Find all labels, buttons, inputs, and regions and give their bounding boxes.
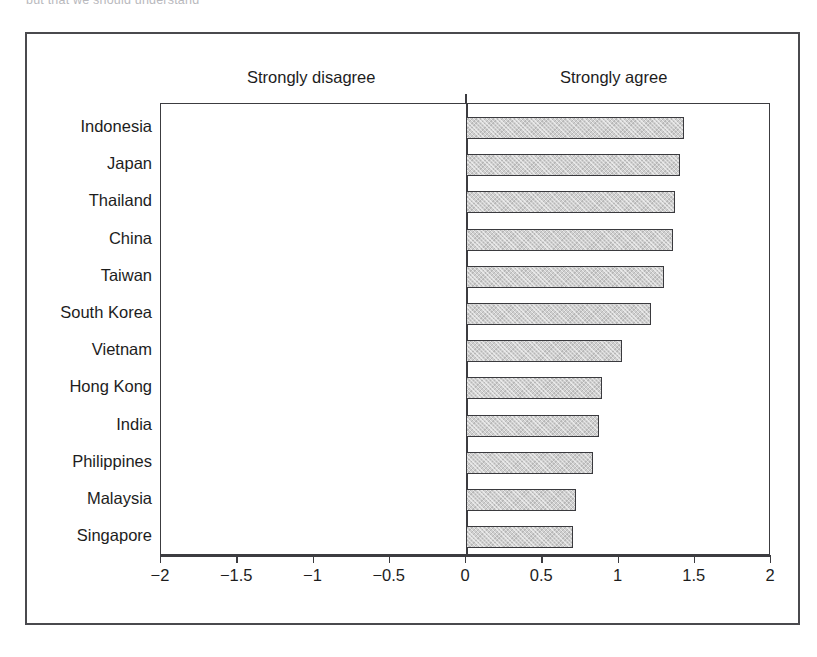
category-label-taiwan: Taiwan bbox=[2, 266, 152, 285]
bar-row bbox=[161, 445, 769, 482]
bar-row bbox=[161, 408, 769, 445]
category-label-south-korea: South Korea bbox=[2, 303, 152, 322]
category-axis-labels: IndonesiaJapanThailandChinaTaiwanSouth K… bbox=[0, 103, 152, 555]
x-tick bbox=[236, 555, 237, 563]
x-tick bbox=[770, 555, 771, 563]
x-tick bbox=[389, 555, 390, 563]
bar-row bbox=[161, 333, 769, 370]
bar-row bbox=[161, 370, 769, 407]
category-label-philippines: Philippines bbox=[2, 452, 152, 471]
x-tick bbox=[465, 555, 466, 563]
x-tick-label: −0.5 bbox=[372, 566, 405, 585]
bar-indonesia bbox=[466, 117, 684, 139]
category-label-singapore: Singapore bbox=[2, 526, 152, 545]
x-tick bbox=[541, 555, 542, 563]
bar-row bbox=[161, 482, 769, 519]
top-caption: but that we should understand bbox=[26, 0, 446, 7]
bar-row bbox=[161, 110, 769, 147]
category-label-indonesia: Indonesia bbox=[2, 117, 152, 136]
bar-singapore bbox=[466, 526, 573, 548]
bar-china bbox=[466, 229, 673, 251]
bar-row bbox=[161, 147, 769, 184]
category-label-china: China bbox=[2, 229, 152, 248]
category-label-vietnam: Vietnam bbox=[2, 340, 152, 359]
bar-vietnam bbox=[466, 340, 622, 362]
category-label-thailand: Thailand bbox=[2, 191, 152, 210]
x-tick-label: 2 bbox=[765, 566, 774, 585]
bar-malaysia bbox=[466, 489, 576, 511]
x-tick-label: 1.5 bbox=[682, 566, 705, 585]
heading-strongly-disagree: Strongly disagree bbox=[247, 68, 375, 87]
bar-philippines bbox=[466, 452, 593, 474]
x-tick-label: −1 bbox=[303, 566, 322, 585]
category-label-malaysia: Malaysia bbox=[2, 489, 152, 508]
plot-area bbox=[160, 103, 770, 555]
x-tick-label: −2 bbox=[151, 566, 170, 585]
bar-taiwan bbox=[466, 266, 664, 288]
x-tick bbox=[313, 555, 314, 563]
bar-south-korea bbox=[466, 303, 651, 325]
heading-strongly-agree: Strongly agree bbox=[560, 68, 667, 87]
x-tick bbox=[618, 555, 619, 563]
category-label-hong-kong: Hong Kong bbox=[2, 377, 152, 396]
category-label-india: India bbox=[2, 415, 152, 434]
x-tick-label: −1.5 bbox=[220, 566, 253, 585]
bar-row bbox=[161, 222, 769, 259]
x-tick-label: 1 bbox=[613, 566, 622, 585]
bars-layer bbox=[161, 104, 769, 554]
bar-row bbox=[161, 259, 769, 296]
bar-japan bbox=[466, 154, 680, 176]
bar-india bbox=[466, 415, 599, 437]
bar-thailand bbox=[466, 191, 675, 213]
bar-row bbox=[161, 296, 769, 333]
x-tick-label: 0.5 bbox=[530, 566, 553, 585]
category-label-japan: Japan bbox=[2, 154, 152, 173]
x-tick bbox=[160, 555, 161, 563]
bar-row bbox=[161, 184, 769, 221]
x-tick-label: 0 bbox=[460, 566, 469, 585]
bar-row bbox=[161, 519, 769, 556]
bar-hong-kong bbox=[466, 377, 602, 399]
x-tick bbox=[694, 555, 695, 563]
